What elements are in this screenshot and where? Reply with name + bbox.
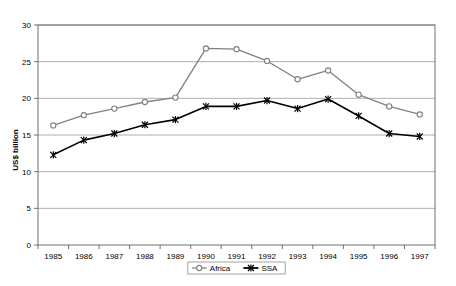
y-axis-ticks: 051015202530 xyxy=(22,21,38,250)
data-point-africa-1991 xyxy=(234,47,239,52)
data-point-africa-1990 xyxy=(203,46,208,51)
marker-circle xyxy=(51,123,56,128)
legend-label-africa: Africa xyxy=(210,264,231,273)
marker-circle xyxy=(197,265,202,270)
marker-circle xyxy=(356,92,361,97)
marker-circle xyxy=(326,68,331,73)
marker-circle xyxy=(417,112,422,117)
y-tick-label-30: 30 xyxy=(22,21,31,30)
data-point-africa-1994 xyxy=(326,68,331,73)
data-point-africa-1985 xyxy=(51,123,56,128)
x-tick-label-1994: 1994 xyxy=(319,252,337,261)
x-tick-label-1990: 1990 xyxy=(197,252,215,261)
legend-swatch-marker xyxy=(197,265,202,270)
x-tick-label-1988: 1988 xyxy=(136,252,154,261)
x-tick-label-1989: 1989 xyxy=(167,252,185,261)
data-point-africa-1995 xyxy=(356,92,361,97)
x-tick-label-1992: 1992 xyxy=(258,252,276,261)
gridlines xyxy=(38,25,435,208)
series-africa xyxy=(51,46,423,128)
marker-circle xyxy=(173,95,178,100)
marker-circle xyxy=(234,47,239,52)
marker-circle xyxy=(81,113,86,118)
line-chart: 051015202530 198519861987198819891990199… xyxy=(0,0,456,286)
x-tick-label-1997: 1997 xyxy=(411,252,429,261)
data-point-africa-1986 xyxy=(81,113,86,118)
x-tick-label-1991: 1991 xyxy=(228,252,246,261)
y-tick-label-25: 25 xyxy=(22,58,31,67)
data-point-africa-1997 xyxy=(417,112,422,117)
y-tick-label-0: 0 xyxy=(27,241,32,250)
data-point-africa-1989 xyxy=(173,95,178,100)
x-tick-label-1993: 1993 xyxy=(289,252,307,261)
series-line-africa xyxy=(53,48,419,125)
series-ssa xyxy=(50,95,422,158)
y-axis-title: US$ billion xyxy=(11,129,20,170)
chart-legend: AfricaSSA xyxy=(188,262,285,274)
data-point-africa-1987 xyxy=(112,106,117,111)
data-point-ssa-1995 xyxy=(356,112,362,119)
data-point-africa-1996 xyxy=(387,104,392,109)
y-tick-label-15: 15 xyxy=(22,131,31,140)
series-layer xyxy=(50,46,422,159)
x-tick-label-1986: 1986 xyxy=(75,252,93,261)
x-tick-label-1985: 1985 xyxy=(44,252,62,261)
x-tick-label-1995: 1995 xyxy=(350,252,368,261)
x-tick-label-1996: 1996 xyxy=(380,252,398,261)
marker-circle xyxy=(264,58,269,63)
chart-canvas: 051015202530 198519861987198819891990199… xyxy=(0,0,456,286)
data-point-africa-1993 xyxy=(295,77,300,82)
marker-circle xyxy=(387,104,392,109)
data-point-ssa-1985 xyxy=(50,151,56,158)
y-tick-label-5: 5 xyxy=(27,204,32,213)
marker-circle xyxy=(203,46,208,51)
marker-circle xyxy=(112,106,117,111)
x-tick-label-1987: 1987 xyxy=(105,252,123,261)
x-axis-ticks: 1985198619871988198919901991199219931994… xyxy=(38,245,435,261)
marker-circle xyxy=(142,99,147,104)
data-point-africa-1992 xyxy=(264,58,269,63)
marker-circle xyxy=(295,77,300,82)
y-tick-label-20: 20 xyxy=(22,94,31,103)
y-tick-label-10: 10 xyxy=(22,168,31,177)
data-point-africa-1988 xyxy=(142,99,147,104)
legend-label-ssa: SSA xyxy=(261,264,278,273)
